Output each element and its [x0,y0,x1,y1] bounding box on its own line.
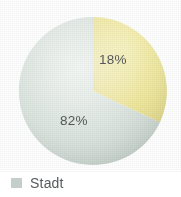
pie-chart-svg [0,0,181,172]
legend-item-label-stadt: Stadt [30,176,64,190]
square-swatch-icon [11,178,22,188]
pie-shading-overlay [19,17,167,165]
pie-chart: 18% 82% [0,0,181,172]
chart-legend: Stadt [11,176,64,190]
